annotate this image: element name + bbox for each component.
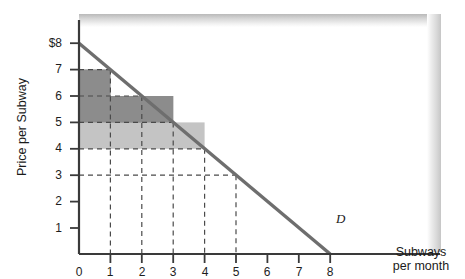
y-tick-label-1: 1: [28, 222, 62, 234]
y-axis-title: Price per Subway: [15, 72, 29, 182]
y-tick-label-7: 7: [28, 63, 62, 75]
y-tick-label-3: 3: [28, 169, 62, 181]
y-tick-label-4: 4: [28, 142, 62, 154]
x-tick-label-1: 1: [100, 266, 120, 278]
y-tick-label-8: $8: [28, 37, 62, 49]
x-tick-label-5: 5: [226, 266, 246, 278]
y-axis-ticks: [70, 43, 79, 228]
y-tick-label-5: 5: [28, 116, 62, 128]
x-axis-title: Subways per month: [378, 245, 464, 273]
x-tick-label-3: 3: [163, 266, 183, 278]
x-tick-label-0: 0: [69, 266, 89, 278]
economics-demand-chart: $8 7 6 5 4 3 2 1 0 1 2 3 4 5 6 7 8 Price…: [0, 0, 465, 279]
x-axis-title-line1: Subways: [396, 245, 447, 259]
bar-block-col2: [110, 96, 141, 122]
x-axis-ticks: [110, 254, 330, 263]
x-axis-title-line2: per month: [393, 259, 449, 273]
chart-plot-area: [0, 0, 465, 279]
x-tick-label-8: 8: [320, 266, 340, 278]
x-tick-label-6: 6: [257, 266, 277, 278]
y-tick-label-2: 2: [28, 195, 62, 207]
demand-curve-label: D: [336, 211, 345, 227]
y-tick-label-6: 6: [28, 90, 62, 102]
x-tick-label-4: 4: [195, 266, 215, 278]
x-tick-label-2: 2: [132, 266, 152, 278]
x-tick-label-7: 7: [289, 266, 309, 278]
